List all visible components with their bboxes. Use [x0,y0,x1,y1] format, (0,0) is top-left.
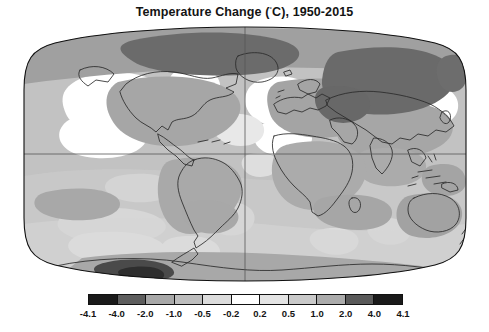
colorbar-segment [118,295,147,304]
colorbar-tick-label: -4.0 [108,308,124,319]
colorbar-segment [374,295,402,304]
temperature-change-figure: Temperature Change (˚C), 1950-2015 [0,0,489,332]
colorbar-tick-label: -2.0 [137,308,153,319]
colorbar-tick-label: 1.0 [310,308,323,319]
colorbar: -4.1-4.0-2.0-1.0-0.5-0.20.20.51.02.04.04… [88,294,403,322]
colorbar-tick-label: -0.2 [223,308,239,319]
colorbar-segment [317,295,346,304]
colorbar-segment [203,295,232,304]
colorbar-segment [346,295,375,304]
colorbar-segment [260,295,289,304]
colorbar-segment [289,295,318,304]
chart-title: Temperature Change (˚C), 1950-2015 [0,5,489,19]
colorbar-segment [232,295,261,304]
colorbar-tick-label: 0.2 [253,308,266,319]
colorbar-segment [146,295,175,304]
colorbar-tick-label: -1.0 [166,308,182,319]
colorbar-tick-label: 0.5 [282,308,295,319]
colorbar-tick-label: 4.0 [368,308,381,319]
chart-title-prefix: Temperature Change ( [136,5,270,19]
world-map-svg [22,26,468,282]
colorbar-tick-label: -4.1 [80,308,96,319]
colorbar-segment [89,295,118,304]
colorbar-tick-label: 2.0 [339,308,352,319]
colorbar-segment [175,295,204,304]
colorbar-tick-label: 4.1 [396,308,409,319]
chart-title-suffix: C), 1950-2015 [272,5,353,19]
colorbar-tick-label: -0.5 [194,308,210,319]
colorbar-tick-labels: -4.1-4.0-2.0-1.0-0.5-0.20.20.51.02.04.04… [88,308,403,322]
world-map-panel [22,26,468,282]
colorbar-bar [88,294,403,305]
